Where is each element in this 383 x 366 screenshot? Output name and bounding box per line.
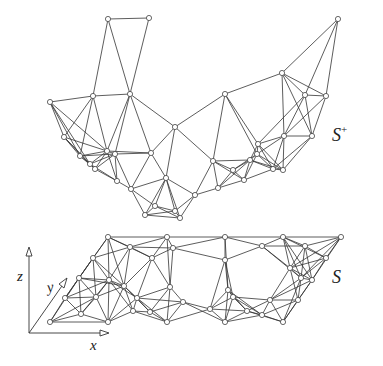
mesh-edge bbox=[130, 247, 173, 248]
mesh-edge bbox=[108, 237, 109, 280]
mesh-edge bbox=[218, 160, 250, 188]
mesh-edge bbox=[213, 161, 218, 188]
mesh-edge bbox=[65, 297, 96, 298]
mesh-vertex bbox=[225, 287, 230, 292]
mesh-edge bbox=[50, 102, 90, 164]
mesh-edge bbox=[152, 258, 170, 287]
mesh-vertex bbox=[323, 255, 328, 260]
mesh-edge bbox=[257, 136, 284, 154]
mesh-vertex bbox=[279, 70, 284, 75]
planar-mesh-label: S bbox=[332, 267, 341, 288]
mesh-edge bbox=[183, 302, 210, 309]
mesh-vertex bbox=[222, 91, 227, 96]
mesh-edge bbox=[155, 206, 175, 211]
mesh-vertex bbox=[180, 299, 185, 304]
mesh-edge bbox=[93, 258, 96, 297]
mesh-edge bbox=[93, 19, 108, 96]
mesh-edge bbox=[167, 302, 183, 322]
mesh-edge bbox=[108, 280, 109, 322]
mesh-vertex bbox=[121, 283, 126, 288]
mesh-edge bbox=[50, 102, 64, 137]
mesh-vertex bbox=[259, 312, 264, 317]
mesh-edge bbox=[173, 237, 225, 248]
mesh-vertex bbox=[241, 177, 246, 182]
mesh-edge bbox=[225, 315, 262, 322]
mesh-edge bbox=[213, 161, 233, 170]
mesh-edge bbox=[130, 18, 149, 94]
mesh-edge bbox=[130, 94, 151, 153]
mesh-vertex bbox=[222, 319, 227, 324]
mesh-vertex bbox=[215, 185, 220, 190]
mesh-edge bbox=[50, 96, 93, 102]
mesh-edge bbox=[326, 19, 338, 96]
mesh-edge bbox=[137, 258, 152, 298]
mesh-vertex bbox=[142, 212, 147, 217]
mesh-edge bbox=[166, 127, 175, 178]
mesh-vertex bbox=[222, 234, 227, 239]
mesh-vertex bbox=[281, 133, 286, 138]
mesh-vertex bbox=[335, 16, 340, 21]
mesh-vertex bbox=[105, 16, 110, 21]
mesh-vertex bbox=[106, 277, 111, 282]
x-axis-arrow-icon bbox=[100, 330, 109, 336]
mesh-vertex bbox=[105, 319, 110, 324]
mesh-vertex bbox=[302, 243, 307, 248]
mesh-vertex bbox=[244, 308, 249, 313]
mesh-edge bbox=[282, 73, 284, 136]
mesh-vertex bbox=[146, 15, 151, 20]
mesh-edge bbox=[93, 258, 109, 280]
mesh-edge bbox=[175, 127, 213, 161]
mesh-edge bbox=[225, 94, 258, 144]
mesh-edge bbox=[213, 160, 250, 161]
mesh-edge bbox=[225, 94, 257, 154]
mesh-edge bbox=[213, 94, 225, 161]
mesh-edge bbox=[225, 237, 262, 246]
mesh-vertex bbox=[302, 92, 307, 97]
mesh-edge bbox=[155, 178, 166, 206]
mesh-vertex bbox=[78, 311, 83, 316]
mesh-vertex bbox=[93, 294, 98, 299]
mesh-vertex bbox=[76, 275, 81, 280]
mesh-vertex bbox=[130, 308, 135, 313]
mesh-edge bbox=[183, 302, 225, 322]
mesh-edge bbox=[213, 161, 244, 180]
mesh-vertex bbox=[149, 255, 154, 260]
mesh-vertex bbox=[128, 186, 133, 191]
mesh-edge bbox=[130, 247, 152, 258]
mesh-edge bbox=[115, 94, 130, 154]
mesh-edge bbox=[50, 297, 96, 322]
mesh-edge bbox=[130, 94, 175, 127]
mesh-edge bbox=[218, 180, 244, 188]
mesh-vertex bbox=[147, 309, 152, 314]
mesh-diagram: S+ S z y x bbox=[0, 0, 383, 366]
mesh-edge bbox=[282, 19, 338, 73]
lifted-surface-label: S+ bbox=[332, 123, 347, 146]
mesh-vertex bbox=[90, 93, 95, 98]
mesh-edge bbox=[175, 94, 225, 127]
mesh-vertex bbox=[259, 243, 264, 248]
mesh-vertex bbox=[287, 265, 292, 270]
mesh-vertex bbox=[148, 150, 153, 155]
mesh-vertex bbox=[62, 295, 67, 300]
mesh-edge bbox=[150, 302, 183, 312]
mesh-vertex bbox=[164, 319, 169, 324]
mesh-edge bbox=[81, 314, 108, 322]
mesh-vertex bbox=[167, 284, 172, 289]
mesh-edge bbox=[247, 300, 270, 311]
mesh-vertex bbox=[280, 234, 285, 239]
mesh-vertex bbox=[280, 319, 285, 324]
mesh-vertex bbox=[247, 157, 252, 162]
mesh-vertex bbox=[222, 257, 227, 262]
mesh-edge bbox=[225, 73, 282, 94]
mesh-figure bbox=[0, 0, 383, 366]
mesh-edge bbox=[50, 102, 80, 156]
mesh-edge bbox=[124, 247, 130, 286]
mesh-edge bbox=[180, 195, 195, 218]
mesh-vertex bbox=[280, 167, 285, 172]
mesh-edge bbox=[283, 136, 312, 170]
mesh-vertex bbox=[61, 134, 66, 139]
x-axis-label: x bbox=[90, 337, 97, 354]
mesh-edge bbox=[173, 248, 225, 260]
mesh-edge bbox=[175, 195, 195, 211]
mesh-edge bbox=[93, 94, 130, 96]
